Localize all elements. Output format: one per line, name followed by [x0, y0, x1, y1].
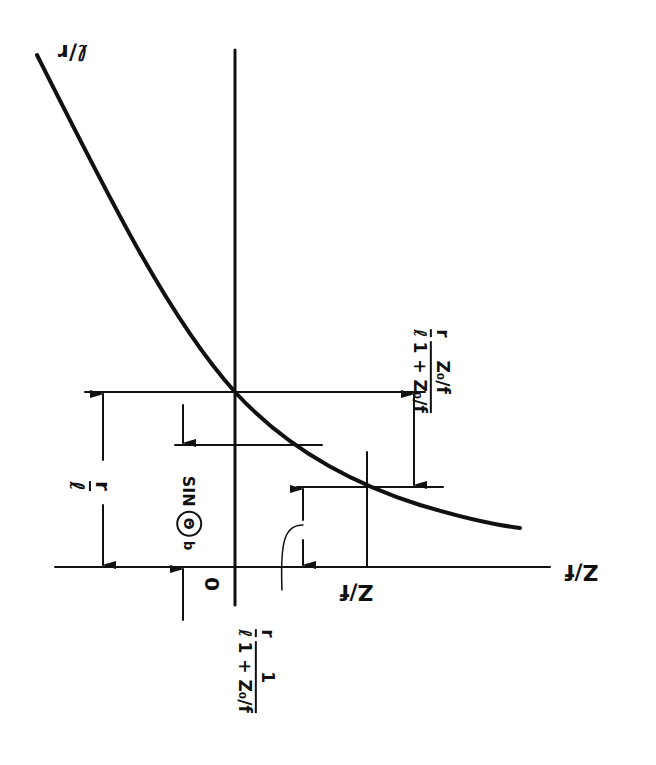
prefix-den: ℓ: [411, 329, 428, 337]
fraction-denominator: 1 + Z₀/f: [236, 642, 253, 713]
fraction-numerator: 1: [259, 671, 276, 683]
fraction-den: ℓ: [67, 481, 87, 490]
left-dimension-label: r ℓ: [67, 481, 115, 491]
curve-label: ℓ/r: [58, 40, 87, 65]
prefix-num: r: [434, 329, 451, 337]
prefix-num: r: [259, 629, 276, 637]
x-tick-label: Z/f: [340, 580, 374, 605]
origin-label: 0: [200, 577, 224, 591]
theta-subscript: b: [182, 541, 197, 551]
diagram-svg: [0, 0, 656, 765]
fraction-num: r: [93, 481, 113, 491]
sin-theta-label: SIN Θ b: [176, 476, 202, 550]
prefix-den: ℓ: [236, 629, 253, 637]
fraction-denominator: 1 + Z₀/f: [411, 342, 428, 413]
curve: [37, 55, 520, 528]
theta-symbol: Θ: [176, 511, 202, 537]
fraction-numerator: Z₀/f: [434, 361, 451, 394]
lower-fraction-label: r ℓ 1 1 + Z₀/f: [236, 629, 278, 713]
upper-right-fraction-label: r ℓ Z₀/f 1 + Z₀/f: [411, 329, 453, 413]
diagram-canvas: ℓ/r r ℓ SIN Θ b 0 Z/f Z/f r ℓ Z₀/f: [0, 0, 656, 765]
leader-curl: [282, 525, 303, 590]
x-axis-label: Z/f: [565, 560, 599, 585]
sin-text: SIN: [180, 476, 199, 507]
